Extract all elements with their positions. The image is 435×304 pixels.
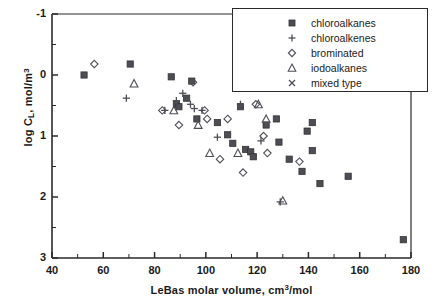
legend-marker-glyph: [288, 64, 296, 71]
x-axis-label: LeBas molar volume, cm3/mol: [52, 283, 411, 296]
data-point-chloroalkanes: [81, 72, 87, 78]
data-point-chloroalkenes: [123, 95, 130, 102]
data-point-chloroalkanes: [304, 128, 310, 134]
legend-item-iodoalkanes: iodoalkanes: [233, 60, 429, 75]
x-axis-label-rest: /mol: [289, 284, 312, 296]
legend-marker-open-triangle-icon: [285, 60, 299, 75]
y-axis-label-sub: L: [27, 113, 36, 118]
legend-marker-glyph: [289, 80, 295, 86]
x-axis-label-main: LeBas molar volume, cm: [150, 284, 284, 296]
legend-marker-glyph: [289, 20, 295, 26]
data-point-brominated: [203, 115, 210, 122]
data-point-chloroalkanes: [194, 116, 200, 122]
x-tick-label: 140: [290, 264, 326, 276]
y-tick-label: 2: [20, 190, 46, 202]
data-point-chloroalkanes: [299, 168, 305, 174]
legend-label: chloroalkenes: [311, 30, 376, 45]
x-tick-label: 180: [393, 264, 429, 276]
data-point-iodoalkanes: [206, 149, 214, 156]
data-point-brominated: [239, 169, 246, 176]
data-point-chloroalkanes: [230, 140, 236, 146]
x-tick-label: 80: [137, 264, 173, 276]
data-point-chloroalkanes: [225, 132, 231, 138]
legend-marker-filled-square-icon: [285, 15, 299, 30]
data-point-chloroalkanes: [250, 154, 256, 160]
data-point-iodoalkanes: [262, 115, 270, 122]
data-point-chloroalkanes: [184, 95, 190, 101]
x-tick-label: 40: [34, 264, 70, 276]
data-point-chloroalkanes: [276, 139, 282, 145]
legend-label: mixed type: [311, 75, 362, 90]
y-tick-label: 0: [20, 68, 46, 80]
data-point-chloroalkanes: [176, 104, 182, 110]
y-tick-label: 3: [20, 251, 46, 263]
legend-marker-plus-icon: [285, 30, 299, 45]
data-point-brominated: [264, 149, 271, 156]
data-point-brominated: [216, 155, 223, 162]
legend-marker-glyph: [288, 49, 295, 56]
data-point-chloroalkenes: [187, 101, 194, 108]
legend: chloroalkaneschloroalkenesbrominatediodo…: [232, 8, 428, 92]
data-point-iodoalkanes: [234, 149, 242, 156]
data-point-brominated: [91, 60, 98, 67]
legend-label: chloroalkanes: [311, 15, 376, 30]
legend-item-brominated: brominated: [233, 45, 429, 60]
data-point-chloroalkanes: [400, 237, 406, 243]
x-tick-label: 120: [239, 264, 275, 276]
data-point-chloroalkenes: [214, 134, 221, 141]
data-point-brominated: [224, 115, 231, 122]
data-point-chloroalkenes: [161, 107, 168, 114]
data-point-chloroalkenes: [257, 137, 264, 144]
data-point-chloroalkanes: [127, 61, 133, 67]
legend-item-chloroalkanes: chloroalkanes: [233, 15, 429, 30]
data-point-brominated: [296, 158, 303, 165]
legend-marker-cross-x-icon: [285, 75, 299, 90]
legend-item-chloroalkenes: chloroalkenes: [233, 30, 429, 45]
data-point-chloroalkanes: [168, 74, 174, 80]
data-point-chloroalkanes: [286, 156, 292, 162]
x-tick-label: 160: [342, 264, 378, 276]
scatter-chart: log CL, mol/m3 LeBas molar volume, cm3/m…: [0, 0, 435, 304]
y-tick-label: -1: [20, 7, 46, 19]
legend-label: brominated: [311, 45, 364, 60]
legend-marker-open-diamond-icon: [285, 45, 299, 60]
data-point-chloroalkanes: [317, 180, 323, 186]
data-point-chloroalkanes: [345, 173, 351, 179]
data-point-chloroalkanes: [309, 148, 315, 154]
x-tick-label: 100: [188, 264, 224, 276]
legend-marker-glyph: [289, 34, 296, 41]
legend-label: iodoalkanes: [311, 60, 367, 75]
y-axis-label: log CL, mol/m3: [22, 32, 37, 182]
data-point-chloroalkanes: [214, 119, 220, 125]
data-point-chloroalkenes: [198, 107, 205, 114]
y-tick-label: 1: [20, 129, 46, 141]
data-point-chloroalkanes: [309, 119, 315, 125]
legend-item-mixed-type: mixed type: [233, 75, 429, 90]
x-tick-label: 60: [85, 264, 121, 276]
data-point-chloroalkanes: [273, 116, 279, 122]
data-point-iodoalkanes: [130, 80, 138, 87]
data-point-brominated: [175, 121, 182, 128]
data-point-chloroalkenes: [191, 105, 198, 112]
